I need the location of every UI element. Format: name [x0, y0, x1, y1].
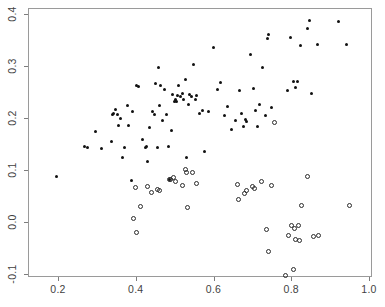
data-point-filled: [159, 84, 162, 87]
data-point-filled: [195, 94, 198, 97]
data-point-filled: [270, 106, 273, 109]
data-point-filled: [299, 44, 302, 47]
data-point-filled: [194, 98, 197, 101]
x-axis-tick-label: 1.0: [349, 283, 385, 295]
data-point-filled: [242, 125, 245, 128]
data-point-filled: [156, 146, 159, 149]
data-point-filled: [182, 98, 185, 101]
data-point-open: [266, 249, 271, 254]
scatter-plot: 0.20.40.60.81.0 -0.10.00.10.20.30.4: [0, 0, 385, 307]
data-point-filled: [308, 19, 311, 22]
data-point-open: [149, 190, 154, 195]
data-point-filled: [177, 84, 180, 87]
data-point-filled: [170, 129, 173, 132]
data-point-filled: [264, 114, 267, 117]
data-point-open: [316, 233, 321, 238]
x-axis-tick-label: 0.6: [194, 283, 234, 295]
data-point-open: [259, 179, 264, 184]
data-point-filled: [258, 103, 261, 106]
data-point-filled: [161, 119, 164, 122]
data-point-filled: [252, 87, 255, 90]
data-point-open: [272, 120, 277, 125]
data-point-open: [347, 203, 352, 208]
data-point-filled: [207, 110, 210, 113]
data-point-filled: [86, 146, 89, 149]
data-point-filled: [171, 93, 174, 96]
data-point-open: [157, 188, 162, 193]
data-point-filled: [131, 110, 134, 113]
data-point-filled: [203, 150, 206, 153]
data-point-filled: [234, 119, 237, 122]
data-point-open: [283, 273, 288, 278]
data-point-open: [299, 203, 304, 208]
data-point-filled: [119, 117, 122, 120]
data-point-filled: [256, 125, 259, 128]
x-axis-tick: [136, 277, 137, 281]
data-point-filled: [121, 156, 124, 159]
data-point-open: [180, 183, 185, 188]
data-point-filled: [226, 105, 229, 108]
data-point-filled: [148, 126, 151, 129]
data-points-layer: [0, 0, 385, 307]
y-axis-tick-label: 0.2: [5, 108, 19, 128]
data-point-filled: [306, 27, 309, 30]
data-point-filled: [114, 108, 117, 111]
data-point-filled: [289, 36, 292, 39]
data-point-open: [235, 182, 240, 187]
x-axis-tick: [291, 277, 292, 281]
data-point-filled: [163, 88, 166, 91]
data-point-filled: [245, 120, 248, 123]
y-axis-tick-label: 0.4: [5, 4, 19, 24]
data-point-filled: [316, 43, 319, 46]
data-point-filled: [110, 140, 113, 143]
data-point-filled: [292, 80, 295, 83]
data-point-open: [134, 230, 139, 235]
y-axis-tick-label: 0.0: [5, 212, 19, 232]
x-axis-tick-label: 0.8: [271, 283, 311, 295]
y-axis-tick: [24, 170, 28, 171]
data-point-filled: [145, 145, 148, 148]
data-point-filled: [212, 46, 215, 49]
data-point-filled: [123, 146, 126, 149]
data-point-filled: [198, 112, 201, 115]
data-point-filled: [100, 147, 103, 150]
data-point-filled: [216, 88, 219, 91]
data-point-open: [173, 179, 178, 184]
data-point-filled: [286, 89, 289, 92]
data-point-filled: [146, 160, 149, 163]
data-point-filled: [137, 85, 140, 88]
data-point-filled: [223, 114, 226, 117]
data-point-filled: [266, 37, 269, 40]
y-axis-tick: [24, 274, 28, 275]
data-point-filled: [154, 82, 157, 85]
data-point-filled: [116, 113, 119, 116]
y-axis-tick-label: 0.1: [5, 160, 19, 180]
data-point-filled: [230, 128, 233, 131]
data-point-open: [131, 216, 136, 221]
data-point-filled: [310, 92, 313, 95]
data-point-filled: [337, 20, 340, 23]
data-point-filled: [157, 66, 160, 69]
data-point-filled: [294, 86, 297, 89]
data-point-filled: [130, 179, 133, 182]
data-point-filled: [181, 92, 184, 95]
data-point-open: [296, 223, 301, 228]
data-point-filled: [153, 113, 156, 116]
y-axis-tick: [24, 66, 28, 67]
data-point-filled: [185, 156, 188, 159]
x-axis-tick: [369, 277, 370, 281]
y-axis-tick: [24, 222, 28, 223]
data-point-open: [133, 185, 138, 190]
y-axis-tick: [24, 14, 28, 15]
data-point-filled: [296, 80, 299, 83]
data-point-filled: [158, 104, 161, 107]
data-point-open: [291, 267, 296, 272]
data-point-filled: [192, 63, 195, 66]
data-point-filled: [117, 124, 120, 127]
data-point-open: [138, 204, 143, 209]
data-point-filled: [201, 109, 204, 112]
data-point-filled: [249, 53, 252, 56]
data-point-open: [184, 170, 189, 175]
data-point-filled: [55, 175, 58, 178]
data-point-filled: [238, 89, 241, 92]
